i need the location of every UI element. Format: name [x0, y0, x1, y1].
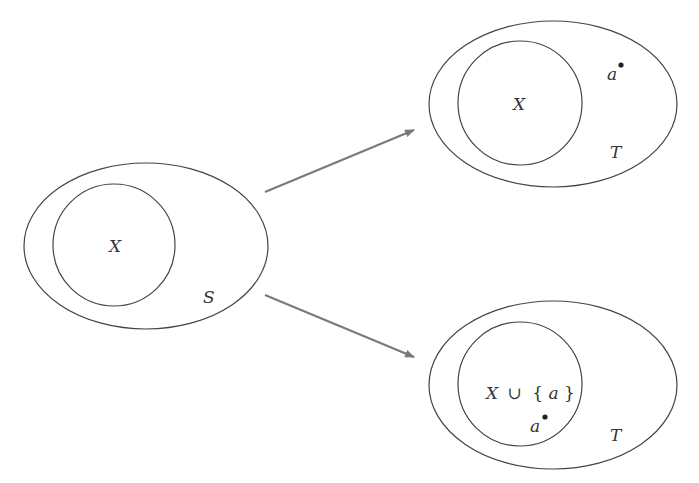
- arrow-to-top: [265, 130, 414, 192]
- point-a-bottom-dot: [542, 414, 547, 419]
- union-symbol: ∪: [508, 383, 522, 403]
- set-x-label: X: [107, 236, 122, 256]
- point-a-top-label: a: [607, 64, 617, 84]
- point-a-top-dot: [618, 62, 623, 67]
- set-t-top-label: T: [610, 142, 623, 162]
- set-t-top-ellipse: [429, 21, 677, 187]
- set-s-label: S: [203, 287, 215, 307]
- union-x-part: X: [484, 383, 499, 403]
- set-s-group: X S: [24, 163, 268, 329]
- set-x-top-label: X: [511, 94, 526, 114]
- point-a-bottom-label: a: [530, 416, 540, 436]
- set-t-bottom-group: X ∪ { a } a T: [429, 301, 677, 469]
- union-a-part: a: [548, 383, 558, 403]
- set-t-bottom-label: T: [610, 425, 623, 445]
- set-s-ellipse: [24, 163, 268, 329]
- set-t-top-group: X a T: [429, 21, 677, 187]
- set-x-union-a-label: X ∪ { a }: [484, 383, 575, 403]
- diagram-canvas: X S X a T X ∪ { a } a T: [0, 0, 699, 483]
- brace-close: }: [564, 383, 575, 403]
- brace-open: {: [532, 383, 543, 403]
- arrow-to-bottom: [265, 295, 414, 357]
